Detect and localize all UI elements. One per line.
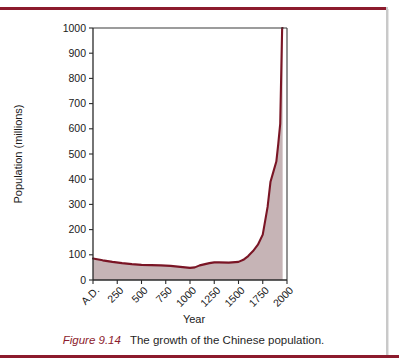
y-axis-tick-label: 300 bbox=[68, 198, 86, 210]
y-axis: 01002003004005006007008009001000 bbox=[63, 22, 93, 286]
x-axis-tick-label: A.D. bbox=[78, 284, 101, 307]
figure-caption-text: The growth of the Chinese population. bbox=[130, 334, 324, 346]
y-axis-title: Population (millions) bbox=[12, 104, 24, 203]
y-axis-tick-label: 500 bbox=[68, 148, 86, 160]
figure-number: Figure 9.14 bbox=[63, 334, 121, 346]
y-axis-tick-label: 900 bbox=[68, 47, 86, 59]
x-axis-title: Year bbox=[183, 313, 206, 325]
bottom-rule bbox=[0, 355, 399, 358]
x-axis-tick-label: 500 bbox=[129, 284, 150, 305]
y-axis-tick-label: 400 bbox=[68, 173, 86, 185]
chart-container: 01002003004005006007008009001000 A.D.250… bbox=[0, 10, 387, 330]
y-axis-tick-label: 1000 bbox=[63, 22, 87, 34]
figure-caption: Figure 9.14The growth of the Chinese pop… bbox=[0, 334, 387, 346]
x-axis-tick-label: 1750 bbox=[246, 284, 271, 309]
y-axis-tick-label: 200 bbox=[68, 223, 86, 235]
x-axis-tick-label: 1500 bbox=[222, 284, 247, 309]
figure-page: 01002003004005006007008009001000 A.D.250… bbox=[0, 0, 399, 364]
x-axis-tick-label: 1250 bbox=[198, 284, 223, 309]
y-axis-tick-label: 0 bbox=[80, 274, 86, 286]
x-axis-tick-label: 1000 bbox=[173, 284, 198, 309]
y-axis-tick-label: 100 bbox=[68, 248, 86, 260]
x-axis-tick-label: 750 bbox=[153, 284, 174, 305]
x-axis-tick-label: 2000 bbox=[270, 284, 295, 309]
plot-background bbox=[93, 28, 287, 280]
y-axis-tick-label: 700 bbox=[68, 97, 86, 109]
population-area-chart: 01002003004005006007008009001000 A.D.250… bbox=[0, 10, 387, 330]
x-axis-tick-label: 250 bbox=[105, 284, 126, 305]
x-axis: A.D.25050075010001250150017502000 bbox=[78, 280, 295, 309]
y-axis-tick-label: 600 bbox=[68, 122, 86, 134]
page-right-edge-shadow-light bbox=[388, 9, 389, 358]
y-axis-tick-label: 800 bbox=[68, 72, 86, 84]
